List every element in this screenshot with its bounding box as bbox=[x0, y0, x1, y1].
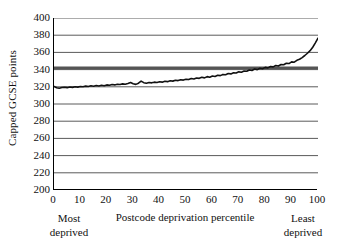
data-line bbox=[54, 38, 318, 88]
y-tick-label: 360 bbox=[6, 46, 50, 57]
y-tick-label: 400 bbox=[6, 12, 50, 23]
y-tick-label: 260 bbox=[6, 132, 50, 143]
least-deprived-note-line: Least bbox=[271, 211, 335, 225]
y-tick-label: 320 bbox=[6, 81, 50, 92]
most-deprived-note-line: Most bbox=[34, 211, 104, 225]
least-deprived-note-line: deprived bbox=[271, 225, 335, 239]
y-tick-label: 380 bbox=[6, 29, 50, 40]
y-tick-label: 300 bbox=[6, 98, 50, 109]
chart-canvas bbox=[54, 18, 318, 190]
chart-figure: Capped GCSE points 200220240260280300320… bbox=[0, 0, 337, 247]
most-deprived-note: Mostdeprived bbox=[34, 211, 104, 239]
most-deprived-note-line: deprived bbox=[34, 225, 104, 239]
y-axis-tick-labels: 200220240260280300320340360380400 bbox=[0, 0, 50, 247]
plot-area bbox=[53, 18, 317, 190]
y-tick-label: 340 bbox=[6, 64, 50, 75]
y-tick-label: 220 bbox=[6, 167, 50, 178]
x-tick-label: 100 bbox=[297, 194, 337, 205]
x-axis-tick-labels: 0102030405060708090100 bbox=[53, 194, 317, 208]
y-tick-label: 240 bbox=[6, 150, 50, 161]
y-tick-label: 280 bbox=[6, 115, 50, 126]
least-deprived-note: Leastdeprived bbox=[271, 211, 335, 239]
